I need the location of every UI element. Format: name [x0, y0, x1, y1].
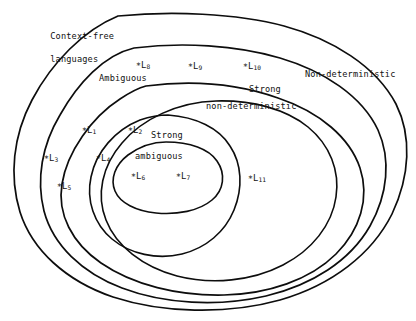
point-sub-L4: 4 [107, 156, 111, 163]
region-label-context-free-line1: Context-free [50, 31, 114, 41]
venn-diagram-figure: Context-free languages Ambiguous Non-det… [0, 0, 416, 321]
point-sub-L7: 7 [187, 174, 191, 181]
region-label-ambiguous: Ambiguous [99, 73, 147, 85]
region-label-context-free-line2: languages [50, 54, 98, 64]
point-sub-L11: 11 [259, 176, 266, 183]
point-label-L6: ∗L6 [131, 170, 145, 184]
point-label-L8: ∗L8 [136, 59, 150, 73]
region-label-strong-ambiguous-line2: ambiguous [135, 151, 183, 163]
point-sub-L6: 6 [142, 174, 146, 181]
point-sub-L10: 10 [254, 64, 261, 71]
region-label-non-deterministic: Non-deterministic [305, 69, 396, 81]
region-label-strong-ambiguous-line1: Strong [151, 130, 183, 142]
point-sub-L8: 8 [147, 63, 151, 70]
region-label-context-free: Context-free languages [29, 19, 114, 77]
point-label-L2: ∗L2 [128, 124, 142, 138]
point-label-L10: ∗L10 [243, 60, 261, 74]
point-label-L1: ∗L1 [82, 124, 96, 138]
point-sub-L3: 3 [55, 156, 59, 163]
point-label-L9: ∗L9 [188, 60, 202, 74]
point-sub-L2: 2 [139, 128, 143, 135]
point-label-L5: ∗L5 [57, 180, 71, 194]
point-sub-L5: 5 [68, 184, 72, 191]
region-label-strong-non-deterministic-line2: non-deterministic [206, 101, 297, 113]
region-label-strong-non-deterministic-line1: Strong [249, 84, 281, 96]
point-label-L11: ∗L11 [248, 172, 266, 186]
point-label-L7: ∗L7 [176, 170, 190, 184]
point-label-L3: ∗L3 [44, 152, 58, 166]
point-label-L4: ∗L4 [96, 152, 110, 166]
point-sub-L1: 1 [93, 128, 97, 135]
point-sub-L9: 9 [199, 64, 203, 71]
boundary-non-deterministic [61, 83, 364, 295]
